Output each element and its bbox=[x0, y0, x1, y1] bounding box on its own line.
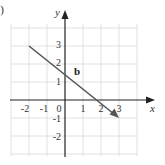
y-axis-label: y bbox=[54, 6, 60, 18]
panel-label: ) bbox=[0, 4, 4, 17]
grid bbox=[11, 24, 137, 156]
y-tick: 1 bbox=[56, 76, 61, 87]
x-tick: 3 bbox=[117, 103, 122, 114]
y-tick: -1 bbox=[53, 113, 61, 124]
x-tick: -2 bbox=[21, 103, 29, 114]
x-tick: -1 bbox=[40, 103, 48, 114]
x-axis-label: x bbox=[149, 102, 155, 114]
y-tick: 3 bbox=[56, 39, 61, 50]
coordinate-plane: x y -2 -1 0 1 2 3 3 2 1 -1 -2 b ) bbox=[0, 0, 165, 165]
x-tick: 1 bbox=[81, 103, 86, 114]
line-label: b bbox=[74, 65, 80, 77]
y-axis-arrow-icon bbox=[62, 10, 69, 19]
y-tick: 2 bbox=[56, 57, 61, 68]
y-tick: -2 bbox=[53, 131, 61, 142]
